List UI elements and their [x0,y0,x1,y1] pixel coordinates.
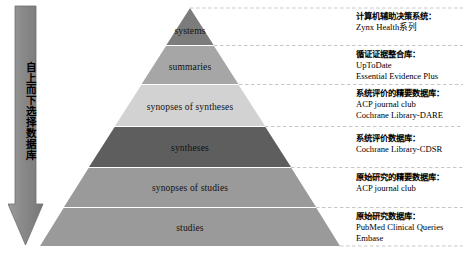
annotation-heading-synopses-of-syntheses: 系统评价的精要数据库： [356,88,464,99]
annotation-item-synopses-of-syntheses-0: ACP journal club [356,99,464,110]
annotation-item-studies-0: PubMed Clinical Queries [356,222,464,233]
annotation-item-synopses-of-syntheses-1: Cochrane Library-DARE [356,110,464,121]
annotation-heading-studies: 原始研究数据库： [356,211,464,222]
annotation-item-summaries-0: UpToDate [356,60,464,71]
tier-label-summaries: summaries [169,62,212,72]
annotation-heading-systems: 计算机辅助决策系统： [356,11,464,22]
tier-label-studies: studies [176,223,203,233]
annotation-syntheses: 系统评价数据库： Cochrane Library-CDSR [356,133,464,155]
tier-label-synopses-of-studies: synopses of studies [152,183,228,193]
annotation-heading-synopses-of-studies: 原始研究的精要数据库： [356,172,464,183]
annotation-heading-summaries: 循证证据整合库： [356,49,464,60]
evidence-pyramid-figure: 自上而下选择数据库 systems summaries synopses of … [0,0,465,253]
annotation-item-summaries-1: Essential Evidence Plus [356,71,464,82]
annotation-item-syntheses-0: Cochrane Library-CDSR [356,144,464,155]
annotation-item-systems-0: Zynx Health系列 [356,22,464,33]
annotation-systems: 计算机辅助决策系统： Zynx Health系列 [356,11,464,33]
annotation-synopses-of-syntheses: 系统评价的精要数据库： ACP journal club Cochrane Li… [356,88,464,120]
annotation-heading-syntheses: 系统评价数据库： [356,133,464,144]
tier-label-syntheses: syntheses [171,143,209,153]
annotation-studies: 原始研究数据库： PubMed Clinical Queries Embase [356,211,464,243]
annotation-item-studies-1: Embase [356,233,464,244]
tier-label-synopses-of-syntheses: synopses of syntheses [147,102,234,112]
annotation-synopses-of-studies: 原始研究的精要数据库： ACP journal club [356,172,464,194]
annotation-summaries: 循证证据整合库： UpToDate Essential Evidence Plu… [356,49,464,81]
annotation-item-synopses-of-studies-0: ACP journal club [356,183,464,194]
tier-label-systems: systems [174,26,205,36]
